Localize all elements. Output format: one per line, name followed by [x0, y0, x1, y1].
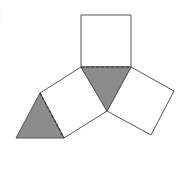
- net-diagram: [0, 0, 180, 178]
- top-square: [81, 15, 131, 67]
